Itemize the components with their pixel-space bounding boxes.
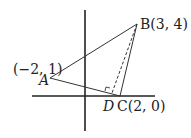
- segment-AB: [50, 24, 137, 78]
- right-angle-mark: [105, 87, 110, 91]
- label-A-coords: (−2, 1): [13, 61, 62, 77]
- altitude-BD: [112, 24, 137, 93]
- segment-BC: [120, 24, 137, 96]
- label-C: C(2, 0): [117, 98, 165, 114]
- label-D: D: [102, 98, 114, 114]
- label-A: A: [37, 72, 49, 88]
- coordinate-diagram: (−2, 1) A B(3, 4) D C(2, 0): [0, 0, 191, 138]
- label-B: B(3, 4): [140, 16, 188, 32]
